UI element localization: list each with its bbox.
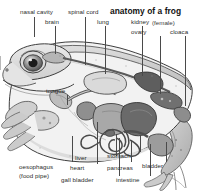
label-cloaca: cloaca — [170, 28, 188, 35]
label-liver: liver — [75, 154, 87, 161]
label-lung: lung — [97, 18, 109, 25]
label-bladder: bladder — [142, 162, 163, 169]
label-heart: heart — [70, 164, 84, 171]
label-layer: anatomy of a frog (female) nasal cavity … — [0, 0, 201, 191]
label-nasal-cavity: nasal cavity — [20, 8, 53, 15]
figure-subtitle: (female) — [152, 19, 175, 26]
label-intestine: intestine — [116, 176, 140, 183]
figure-title: anatomy of a frog — [110, 6, 181, 16]
label-stomach: stomach — [107, 152, 131, 159]
label-ovary: ovary — [131, 28, 146, 35]
label-pancreas: pancreas — [107, 164, 133, 171]
label-oesophagus: oesophagus — [19, 163, 53, 170]
label-brain: brain — [45, 18, 59, 25]
label-gall-bladder: gall bladder — [61, 176, 94, 183]
label-kidney: kidney — [131, 18, 149, 25]
label-tongue: tongue — [46, 87, 65, 94]
label-spinal-cord: spinal cord — [68, 8, 98, 15]
label-oesophagus-note: (food pipe) — [19, 172, 49, 179]
frog-anatomy-figure: anatomy of a frog (female) nasal cavity … — [0, 0, 201, 191]
